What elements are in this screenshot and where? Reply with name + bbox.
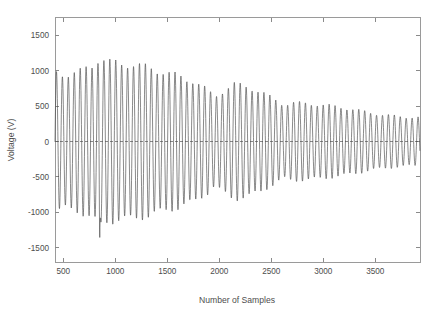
voltage-waveform-chart: -1500-1000-500050010001500 5001000150020… (0, 0, 436, 323)
x-tick-label: 3000 (314, 267, 333, 276)
y-axis-tick-labels: -1500-1000-500050010001500 (28, 31, 49, 253)
y-tick-label: -1500 (28, 244, 49, 253)
y-tick-label: -500 (33, 173, 50, 182)
y-tick-label: -1000 (28, 208, 49, 217)
x-axis-title: Number of Samples (199, 295, 275, 305)
y-tick-label: 1000 (31, 67, 50, 76)
x-tick-label: 1000 (106, 267, 125, 276)
x-tick-label: 500 (56, 267, 70, 276)
x-tick-label: 2000 (210, 267, 229, 276)
x-tick-label: 3500 (366, 267, 385, 276)
x-axis-tick-labels: 500100015002000250030003500 (56, 267, 384, 276)
chart-figure: -1500-1000-500050010001500 5001000150020… (0, 0, 436, 323)
y-tick-label: 0 (44, 138, 49, 147)
plot-area-border (55, 18, 420, 263)
y-tick-label: 500 (35, 102, 49, 111)
y-axis-title: Voltage (V) (6, 119, 16, 162)
voltage-data-trace (55, 59, 420, 237)
x-tick-label: 1500 (158, 267, 177, 276)
x-tick-label: 2500 (262, 267, 281, 276)
x-axis-ticks (63, 18, 375, 263)
y-tick-label: 1500 (31, 31, 50, 40)
